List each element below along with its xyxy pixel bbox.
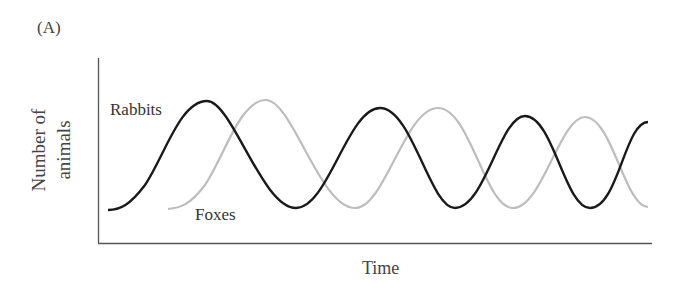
rabbits-line bbox=[108, 101, 648, 210]
series-label-rabbits: Rabbits bbox=[110, 100, 162, 120]
y-axis-label: Number of animals bbox=[26, 90, 76, 210]
y-axis-label-line2: animals bbox=[51, 90, 76, 210]
x-axis-label: Time bbox=[362, 258, 399, 279]
y-axis-label-line1: Number of bbox=[26, 90, 51, 210]
series-label-foxes: Foxes bbox=[195, 205, 236, 225]
chart-plot bbox=[0, 0, 684, 283]
foxes-line bbox=[168, 100, 648, 209]
